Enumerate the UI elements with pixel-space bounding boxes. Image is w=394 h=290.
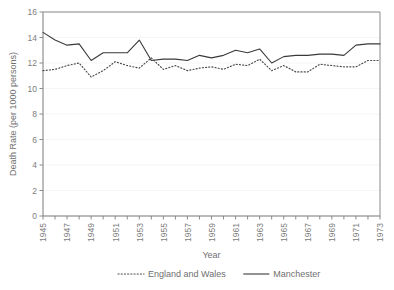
- x-tick-label: 1971: [351, 223, 361, 242]
- y-tick-label: 12: [28, 58, 38, 68]
- y-tick-label: 0: [32, 211, 37, 221]
- x-tick-label: 1953: [135, 223, 145, 242]
- y-tick-label: 16: [28, 7, 38, 17]
- x-axis-ticks: [43, 216, 380, 220]
- x-tick-label: 1963: [255, 223, 265, 242]
- x-tick-label: 1949: [86, 223, 96, 242]
- x-tick-label: 1955: [159, 223, 169, 242]
- x-tick-label: 1969: [327, 223, 337, 242]
- x-tick-label: 1945: [38, 223, 48, 242]
- gridlines: [43, 12, 380, 216]
- data-series-group: [43, 32, 380, 77]
- x-tick-label: 1973: [375, 223, 385, 242]
- chart-container: 0246810121416 19451947194919511953195519…: [0, 0, 394, 290]
- y-axis-ticks: [40, 12, 44, 216]
- y-tick-label: 2: [32, 186, 37, 196]
- x-tick-label: 1957: [183, 223, 193, 242]
- series-line-manchester: [43, 32, 380, 63]
- y-tick-label: 6: [32, 135, 37, 145]
- chart-legend: England and WalesManchester: [118, 269, 320, 279]
- series-line-england-and-wales: [43, 58, 380, 77]
- x-axis-title: Year: [202, 250, 220, 260]
- x-tick-label: 1959: [207, 223, 217, 242]
- y-tick-label: 4: [32, 160, 37, 170]
- y-tick-label: 14: [28, 33, 38, 43]
- x-tick-label: 1951: [111, 223, 121, 242]
- death-rate-line-chart: 0246810121416 19451947194919511953195519…: [0, 0, 394, 290]
- x-axis-tick-labels: 1945194719491951195319551957195919611963…: [38, 223, 385, 242]
- legend-label: England and Wales: [148, 269, 226, 279]
- x-tick-label: 1965: [279, 223, 289, 242]
- y-axis-tick-labels: 0246810121416: [28, 7, 38, 221]
- x-tick-label: 1961: [231, 223, 241, 242]
- x-tick-label: 1947: [62, 223, 72, 242]
- y-tick-label: 8: [32, 109, 37, 119]
- x-tick-label: 1967: [303, 223, 313, 242]
- y-axis-title: Death Rate (per 1000 persons): [8, 52, 18, 176]
- legend-label: Manchester: [273, 269, 320, 279]
- y-tick-label: 10: [28, 84, 38, 94]
